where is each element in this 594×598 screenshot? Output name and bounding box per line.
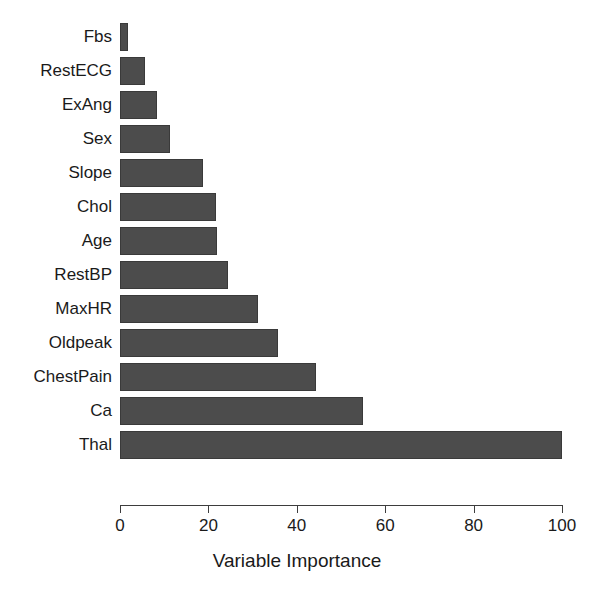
x-axis-tick [120, 505, 121, 513]
x-axis-tick-label: 100 [532, 516, 592, 536]
bar [120, 261, 228, 289]
bar [120, 125, 170, 153]
category-label: Fbs [0, 20, 112, 54]
bar [120, 23, 128, 51]
x-axis-line [120, 505, 562, 506]
x-axis-tick-label: 60 [355, 516, 415, 536]
bar [120, 363, 316, 391]
category-label: Age [0, 224, 112, 258]
x-axis-tick [562, 505, 563, 513]
x-axis-tick [474, 505, 475, 513]
category-label: Sex [0, 122, 112, 156]
x-axis-tick-label: 40 [267, 516, 327, 536]
bar [120, 227, 217, 255]
category-label: Thal [0, 428, 112, 462]
bar [120, 57, 145, 85]
bar-row: Sex [0, 122, 594, 156]
category-label: ChestPain [0, 360, 112, 394]
bar-row: Oldpeak [0, 326, 594, 360]
bar-row: MaxHR [0, 292, 594, 326]
category-label: RestECG [0, 54, 112, 88]
category-label: Chol [0, 190, 112, 224]
x-axis-tick-label: 0 [90, 516, 150, 536]
category-label: ExAng [0, 88, 112, 122]
bar-row: Slope [0, 156, 594, 190]
bar [120, 159, 203, 187]
bar-row: Chol [0, 190, 594, 224]
category-label: Ca [0, 394, 112, 428]
bar-row: ExAng [0, 88, 594, 122]
bar [120, 295, 258, 323]
bar-row: Age [0, 224, 594, 258]
bar [120, 91, 157, 119]
bar-row: RestBP [0, 258, 594, 292]
x-axis-tick-label: 20 [178, 516, 238, 536]
bar-row: Thal [0, 428, 594, 462]
bar-row: ChestPain [0, 360, 594, 394]
bar-row: Fbs [0, 20, 594, 54]
x-axis-tick [208, 505, 209, 513]
x-axis-tick [385, 505, 386, 513]
x-axis-tick-label: 80 [444, 516, 504, 536]
bar [120, 431, 562, 459]
x-axis-tick [297, 505, 298, 513]
bar [120, 193, 216, 221]
bar [120, 397, 363, 425]
category-label: Slope [0, 156, 112, 190]
bar-row: RestECG [0, 54, 594, 88]
category-label: Oldpeak [0, 326, 112, 360]
category-label: RestBP [0, 258, 112, 292]
bar [120, 329, 278, 357]
category-label: MaxHR [0, 292, 112, 326]
bar-row: Ca [0, 394, 594, 428]
x-axis-title: Variable Importance [0, 550, 594, 572]
variable-importance-chart: FbsRestECGExAngSexSlopeCholAgeRestBPMaxH… [0, 0, 594, 598]
